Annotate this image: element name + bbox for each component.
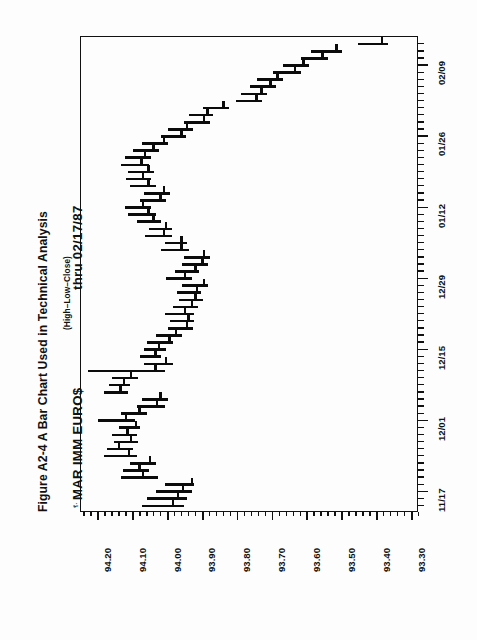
hlc-bar bbox=[144, 348, 167, 351]
price-axis-label: 93.90 bbox=[206, 548, 217, 572]
close-tick bbox=[149, 456, 151, 463]
figure-page: Figure A2-4 A Bar Chart Used in Technica… bbox=[0, 0, 477, 640]
date-minor-tick bbox=[418, 235, 424, 236]
date-axis-label: 01/26 bbox=[436, 132, 447, 156]
price-axis-label: 93.50 bbox=[346, 548, 357, 572]
date-axis-label: 01/12 bbox=[436, 203, 447, 227]
date-minor-tick bbox=[418, 72, 424, 73]
price-minor-tick bbox=[390, 512, 391, 516]
price-minor-tick bbox=[327, 512, 328, 516]
date-minor-tick bbox=[418, 384, 424, 385]
price-minor-tick bbox=[265, 512, 266, 516]
price-minor-tick bbox=[230, 512, 231, 516]
hlc-bar bbox=[161, 249, 189, 252]
price-minor-tick bbox=[223, 512, 224, 516]
close-tick bbox=[163, 186, 165, 193]
price-minor-tick bbox=[188, 512, 189, 516]
hlc-bar bbox=[144, 363, 174, 366]
date-minor-tick bbox=[418, 50, 424, 51]
date-minor-tick bbox=[418, 434, 424, 435]
hlc-bar bbox=[184, 256, 210, 259]
price-major-tick bbox=[237, 512, 239, 520]
date-axis-ticks bbox=[418, 36, 429, 512]
close-tick bbox=[203, 279, 205, 286]
date-major-tick bbox=[418, 64, 428, 66]
date-minor-tick bbox=[418, 128, 424, 129]
price-minor-tick bbox=[111, 512, 112, 516]
hlc-bar bbox=[301, 57, 329, 60]
date-minor-tick bbox=[418, 199, 424, 200]
hlc-bar bbox=[156, 334, 182, 337]
date-minor-tick bbox=[418, 405, 424, 406]
price-minor-tick bbox=[362, 512, 363, 516]
price-minor-tick bbox=[216, 512, 217, 516]
plot-area bbox=[80, 36, 418, 512]
corner-glyph-icon: ⸮· bbox=[72, 503, 79, 508]
hlc-bar bbox=[109, 384, 130, 387]
date-minor-tick bbox=[418, 214, 424, 215]
date-minor-tick bbox=[418, 313, 424, 314]
price-minor-tick bbox=[300, 512, 301, 516]
hlc-bar bbox=[98, 419, 135, 422]
date-minor-tick bbox=[418, 320, 424, 321]
price-minor-tick bbox=[397, 512, 398, 516]
price-minor-tick bbox=[244, 512, 245, 516]
close-tick bbox=[381, 37, 383, 44]
date-major-tick bbox=[418, 135, 428, 137]
price-minor-tick bbox=[104, 512, 105, 516]
date-major-tick bbox=[418, 349, 428, 351]
date-minor-tick bbox=[418, 505, 424, 506]
hlc-bar bbox=[144, 192, 170, 195]
hlc-bar bbox=[114, 441, 138, 444]
price-major-tick bbox=[306, 512, 308, 520]
price-minor-tick bbox=[125, 512, 126, 516]
figure-caption: Figure A2-4 A Bar Chart Used in Technica… bbox=[36, 211, 50, 512]
date-minor-tick bbox=[418, 57, 424, 58]
hlc-bar bbox=[168, 128, 192, 131]
hlc-bar bbox=[112, 434, 136, 437]
hlc-bar bbox=[165, 313, 195, 316]
date-minor-tick bbox=[418, 43, 424, 44]
hlc-bar bbox=[137, 220, 161, 223]
hlc-bar bbox=[166, 277, 192, 280]
hlc-bar bbox=[121, 164, 149, 167]
date-major-tick bbox=[418, 420, 428, 422]
date-minor-tick bbox=[418, 427, 424, 428]
date-minor-tick bbox=[418, 327, 424, 328]
date-minor-tick bbox=[418, 249, 424, 250]
price-minor-tick bbox=[90, 512, 91, 516]
hlc-bar bbox=[168, 327, 192, 330]
price-major-tick bbox=[341, 512, 343, 520]
date-minor-tick bbox=[418, 341, 424, 342]
date-major-tick bbox=[418, 207, 428, 209]
hlc-bar bbox=[112, 377, 138, 380]
price-minor-tick bbox=[404, 512, 405, 516]
close-tick bbox=[335, 44, 337, 51]
date-axis-label: 02/09 bbox=[436, 61, 447, 85]
close-tick bbox=[180, 236, 182, 243]
price-axis-label: 93.60 bbox=[311, 548, 322, 572]
date-minor-tick bbox=[418, 498, 424, 499]
hlc-bar bbox=[126, 178, 150, 181]
hlc-bar bbox=[273, 71, 301, 74]
date-axis-label: 12/15 bbox=[436, 346, 447, 370]
price-minor-tick bbox=[153, 512, 154, 516]
price-minor-tick bbox=[348, 512, 349, 516]
date-minor-tick bbox=[418, 292, 424, 293]
hlc-bar bbox=[147, 497, 187, 500]
price-major-tick bbox=[97, 512, 99, 520]
date-axis-label: 12/01 bbox=[436, 417, 447, 441]
hlc-bar bbox=[358, 43, 388, 46]
date-minor-tick bbox=[418, 114, 424, 115]
hlc-bar bbox=[250, 85, 276, 88]
hlc-bar bbox=[107, 448, 133, 451]
date-minor-tick bbox=[418, 398, 424, 399]
hlc-bar bbox=[123, 469, 149, 472]
hlc-bar bbox=[184, 121, 210, 124]
hlc-bar bbox=[241, 93, 267, 96]
hlc-bar bbox=[125, 156, 151, 159]
date-minor-tick bbox=[418, 221, 424, 222]
price-minor-tick bbox=[369, 512, 370, 516]
hlc-bar bbox=[104, 391, 128, 394]
hlc-bar bbox=[140, 355, 161, 358]
